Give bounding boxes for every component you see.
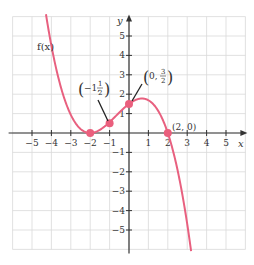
svg-text:): ) bbox=[167, 68, 173, 87]
point-label-neg1-half: ( −1, 1 2 ) bbox=[78, 80, 110, 121]
x-tick-label: 5 bbox=[223, 138, 229, 148]
y-tick-label: 4 bbox=[119, 50, 125, 60]
x-tick-label: −5 bbox=[25, 138, 39, 148]
x-axis-arrow-icon bbox=[240, 130, 247, 136]
point-label-0-three-halves: ( 0, 3 2 ) bbox=[132, 68, 173, 101]
data-point bbox=[125, 100, 133, 108]
x-tick-label: −2 bbox=[84, 138, 97, 148]
x-axis-label: x bbox=[238, 138, 244, 149]
x-tick-label: 3 bbox=[184, 138, 190, 148]
y-tick-label: −4 bbox=[112, 206, 126, 216]
point-label-2-0: (2, 0) bbox=[172, 122, 196, 132]
svg-text:1: 1 bbox=[98, 80, 102, 88]
y-tick-label: −1 bbox=[112, 147, 125, 157]
y-axis-label: y bbox=[116, 15, 123, 26]
data-point bbox=[164, 129, 172, 137]
svg-text:): ) bbox=[104, 80, 110, 99]
y-tick-label: −5 bbox=[112, 225, 126, 235]
data-point bbox=[106, 119, 114, 127]
callout-line-a bbox=[98, 100, 108, 121]
svg-text:2: 2 bbox=[98, 89, 102, 97]
y-tick-label: 3 bbox=[119, 70, 125, 80]
y-tick-label: 5 bbox=[119, 31, 125, 41]
x-tick-label: −3 bbox=[64, 138, 78, 148]
data-point bbox=[86, 129, 94, 137]
y-tick-label: −2 bbox=[112, 167, 125, 177]
svg-text:0,: 0, bbox=[149, 71, 158, 81]
x-tick-label: 4 bbox=[204, 138, 210, 148]
y-axis-arrow-icon bbox=[126, 15, 132, 22]
svg-text:3: 3 bbox=[161, 68, 165, 76]
function-graph: −5−4−3−2−112345−5−4−3−2−112345 x y f(x) … bbox=[0, 0, 254, 265]
x-tick-label: −4 bbox=[45, 138, 59, 148]
y-tick-label: −3 bbox=[112, 186, 126, 196]
svg-text:2: 2 bbox=[161, 77, 165, 85]
function-label: f(x) bbox=[37, 41, 54, 52]
y-tick-label: 2 bbox=[119, 89, 125, 99]
x-tick-label: 1 bbox=[146, 138, 152, 148]
